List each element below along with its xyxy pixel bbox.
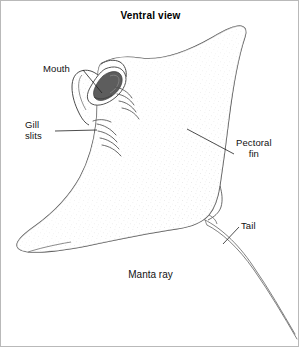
figure-title: Ventral view [1, 10, 299, 21]
label-pectoral-fin-line2: fin [236, 148, 272, 159]
label-mouth: Mouth [43, 63, 70, 74]
label-pectoral-fin-line1: Pectoral [236, 137, 272, 148]
tail-leader [223, 227, 239, 244]
manta-ray-illustration [1, 1, 299, 347]
label-gill-slits: Gill slits [25, 119, 42, 141]
gill-leader [55, 130, 97, 131]
label-gill-slits-line1: Gill [25, 119, 42, 130]
figure-caption: Manta ray [1, 269, 299, 280]
label-pectoral-fin: Pectoral fin [236, 137, 272, 159]
figure-panel: Ventral view Mouth Gill slits Pectoral f… [0, 0, 299, 347]
label-gill-slits-line2: slits [25, 130, 42, 141]
label-tail: Tail [241, 220, 256, 231]
